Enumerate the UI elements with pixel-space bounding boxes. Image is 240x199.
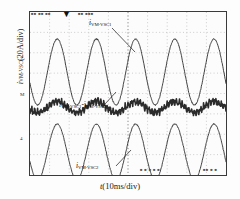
scope-text-bottom-center: ■ ■ ■ ■ ■ (140, 167, 160, 172)
y-tick-label-3: 4 (20, 136, 23, 141)
cursor-marker-icon: ▼ (62, 9, 71, 19)
y-axis-subscript: VM-VSC (18, 61, 24, 82)
x-axis-label: t(10ms/div) (0, 181, 240, 191)
y-tick-label-1: 3 (20, 56, 23, 61)
bottom-trace-label: iVM-VSC2 (76, 162, 98, 171)
top-trace-label: iVM-VSC1 (89, 19, 111, 28)
plot-area (29, 11, 227, 176)
scope-text-top-center: ■■ ■■■ (78, 11, 94, 16)
y-axis-symbol: i (16, 82, 25, 84)
y-tick-label-2: M (20, 92, 24, 97)
scope-text-bottom-right: ■■ ■ ■ (203, 167, 217, 172)
middle-trace-label: iVM-VSC1-iVM-VSC2 (59, 101, 106, 110)
oscilloscope-figure: iVM-VSC(20A/div) t(10ms/div) 3 M 4 ■■ ■■… (0, 0, 240, 199)
x-axis-unit: (10ms/div) (102, 181, 140, 191)
scope-text-top-left: ■■ ■■ ■■ (31, 11, 51, 16)
waveform-canvas (30, 12, 226, 175)
